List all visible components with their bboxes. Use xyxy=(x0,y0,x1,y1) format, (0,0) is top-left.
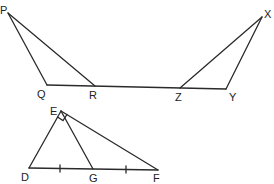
geometry-diagram: P Q R X Z Y E D G F xyxy=(0,0,274,184)
label-p: P xyxy=(0,4,7,16)
triangle-pqr xyxy=(8,13,95,86)
segment-eg xyxy=(61,111,93,169)
label-d: D xyxy=(21,171,29,183)
triangle-def xyxy=(29,111,158,173)
segment-pq xyxy=(8,13,47,85)
baseline-qy xyxy=(47,85,226,89)
segment-pr xyxy=(8,13,95,86)
segment-xy xyxy=(226,17,262,89)
label-x: X xyxy=(264,8,272,20)
segment-ef xyxy=(61,111,158,170)
label-z: Z xyxy=(175,91,182,103)
label-y: Y xyxy=(229,91,237,103)
label-e: E xyxy=(50,105,57,117)
label-q: Q xyxy=(37,88,46,100)
triangle-xyz xyxy=(180,17,262,89)
label-g: G xyxy=(89,172,98,184)
label-r: R xyxy=(89,89,97,101)
segment-xz xyxy=(180,17,262,88)
segment-de xyxy=(29,111,61,168)
label-f: F xyxy=(153,172,160,184)
